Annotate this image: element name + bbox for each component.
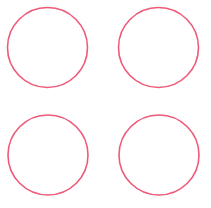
- diagram-canvas: [0, 0, 211, 208]
- circle-bottom-right: [119, 115, 199, 195]
- circle-top-right: [119, 8, 199, 88]
- circle-bottom-left: [8, 115, 88, 195]
- circle-top-left: [8, 8, 88, 88]
